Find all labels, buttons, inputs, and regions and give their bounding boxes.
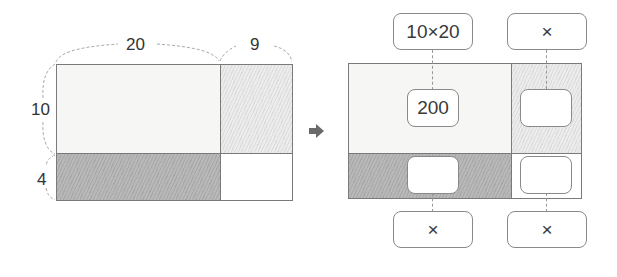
expression-box-10x20: 10×20 (393, 13, 473, 50)
connector-bottom-left (432, 193, 433, 212)
height-label-10: 10 (31, 100, 50, 120)
answer-box-200: 200 (407, 89, 459, 127)
divider-horizontal (56, 153, 293, 154)
answer-box-bottom-left[interactable] (407, 156, 459, 194)
width-label-20: 20 (126, 35, 145, 55)
connector-top-left (432, 50, 433, 90)
connector-top-right (546, 50, 547, 89)
answer-box-top-right[interactable] (520, 89, 572, 127)
outer-frame (56, 64, 293, 201)
width-label-9: 9 (250, 35, 259, 55)
divider-horizontal (348, 153, 582, 154)
expression-box-top-right[interactable]: × (507, 13, 587, 50)
divider-vertical (220, 64, 221, 201)
right-arrow-icon (309, 124, 324, 138)
expression-box-bottom-right[interactable]: × (507, 211, 587, 248)
answer-box-bottom-right[interactable] (520, 156, 572, 194)
expression-box-bottom-left[interactable]: × (393, 211, 473, 248)
divider-vertical (511, 63, 512, 199)
connector-bottom-right (546, 193, 547, 212)
height-label-4: 4 (37, 170, 46, 190)
